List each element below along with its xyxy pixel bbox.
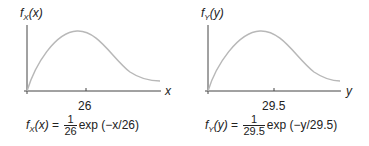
label-arg: (y) (210, 6, 224, 20)
x-tick-label: 29.5 (262, 99, 285, 113)
formula-arg: (x) (35, 118, 49, 132)
density-curve (208, 31, 340, 91)
formula-eq: = (52, 118, 59, 132)
y-axis-label-y: fY(y) (201, 6, 224, 20)
formula-eq: = (231, 118, 238, 132)
formula-y: fY(y) = 129.5exp (−y/29.5) (205, 114, 337, 137)
y-axis-label-x: fX(x) (20, 6, 43, 20)
panel-y-plot (205, 25, 341, 94)
formula-rhs: exp (−y/29.5) (267, 118, 337, 132)
formula-arg: (y) (214, 118, 228, 132)
formula-sub: Y (208, 125, 213, 134)
denominator: 26 (64, 126, 76, 137)
x-axis-label: x (165, 84, 171, 98)
label-sub: X (23, 13, 28, 22)
label-arg: (x) (29, 6, 43, 20)
label-sub: Y (204, 13, 209, 22)
panel-x-plot (24, 25, 161, 94)
x-axis-label: y (346, 84, 352, 98)
formula-sub: X (29, 125, 34, 134)
formula-x: fX(x) = 126exp (−x/26) (26, 114, 139, 137)
density-curve (27, 31, 160, 91)
fraction: 129.5 (243, 114, 264, 137)
formula-rhs: exp (−x/26) (79, 118, 139, 132)
x-tick-label: 26 (78, 99, 91, 113)
denominator: 29.5 (243, 126, 264, 137)
fraction: 126 (64, 114, 76, 137)
